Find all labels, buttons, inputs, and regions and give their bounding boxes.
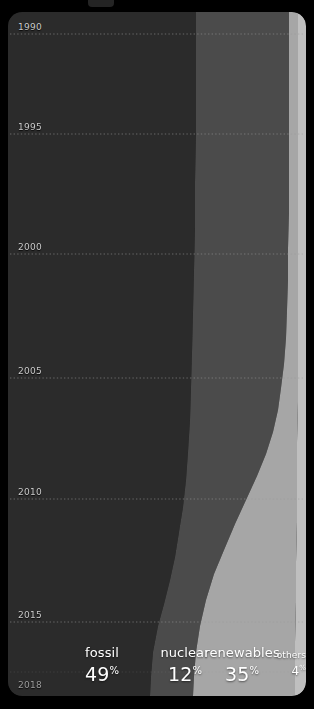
chart-root: 1990 1995 2000 2005 2010 2015 2018 fossi… bbox=[0, 0, 314, 709]
stacked-area-chart-plate: 1990 1995 2000 2005 2010 2015 2018 fossi… bbox=[8, 12, 306, 696]
stacked-area-chart-svg bbox=[8, 12, 306, 696]
top-notch-decoration bbox=[88, 0, 114, 7]
